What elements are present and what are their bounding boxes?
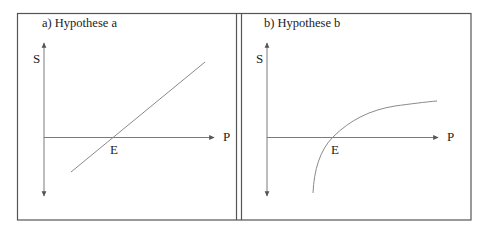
panel-b-graph	[267, 43, 438, 196]
panel-a-title: a) Hypothese a	[42, 17, 117, 30]
panel-b-title: b) Hypothese b	[264, 17, 340, 30]
panel-a-equilibrium-label: E	[110, 143, 118, 156]
panel-a-y-axis-label: S	[33, 52, 40, 65]
outer-frame	[18, 14, 472, 221]
panel-b-y-axis-label: S	[256, 52, 263, 65]
panel-b-equilibrium-label: E	[331, 143, 339, 156]
panel-a-graph	[44, 43, 214, 196]
panel-a-x-axis-label: P	[223, 130, 230, 143]
diagram-canvas	[0, 0, 487, 232]
panel-a-linear-curve	[71, 62, 205, 172]
panel-b-x-axis-label: P	[447, 130, 454, 143]
